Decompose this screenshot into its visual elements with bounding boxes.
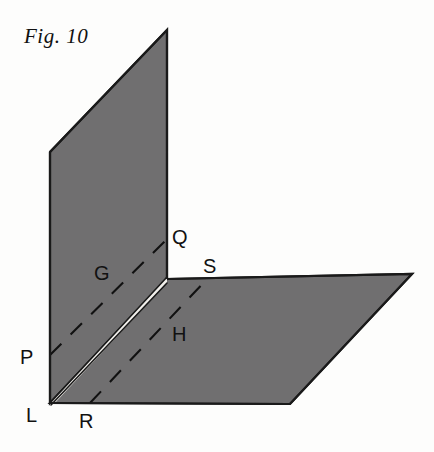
figure-10-diagram: Fig. 10 G H P Q R S L	[0, 0, 434, 452]
point-q-label: Q	[172, 226, 188, 249]
figure-caption: Fig. 10	[24, 24, 88, 49]
plane-h-label: H	[172, 323, 186, 346]
geometry-illustration	[0, 0, 434, 452]
point-l-label: L	[26, 404, 37, 427]
point-p-label: P	[20, 346, 33, 369]
point-r-label: R	[79, 410, 93, 433]
point-s-label: S	[203, 255, 216, 278]
plane-g-label: G	[94, 262, 110, 285]
